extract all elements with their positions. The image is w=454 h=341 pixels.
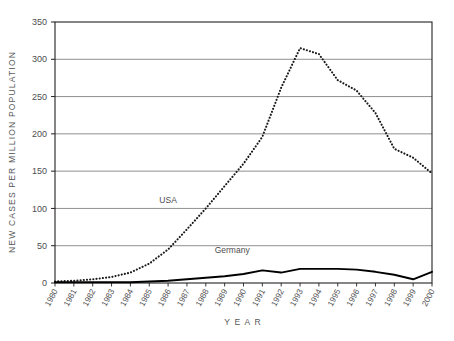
- y-axis-tick-label: 0: [42, 278, 47, 288]
- y-axis-tick-label: 150: [32, 166, 47, 176]
- y-axis-title: NEW CASES PER MILLION POPULATION: [7, 51, 17, 253]
- series-annotation-germany: Germany: [215, 245, 251, 255]
- y-axis-tick-label: 200: [32, 129, 47, 139]
- y-axis-tick-label: 350: [32, 17, 47, 27]
- y-axis-tick-label: 250: [32, 92, 47, 102]
- chart-background: [0, 0, 454, 341]
- y-axis-tick-label: 100: [32, 204, 47, 214]
- series-annotation-usa: USA: [159, 195, 177, 205]
- line-chart-figure: 050100150200250300350 198019811982198319…: [0, 0, 454, 341]
- y-axis-tick-label: 300: [32, 54, 47, 64]
- y-axis-tick-label: 50: [37, 241, 47, 251]
- x-axis-title: Y E A R: [224, 317, 262, 327]
